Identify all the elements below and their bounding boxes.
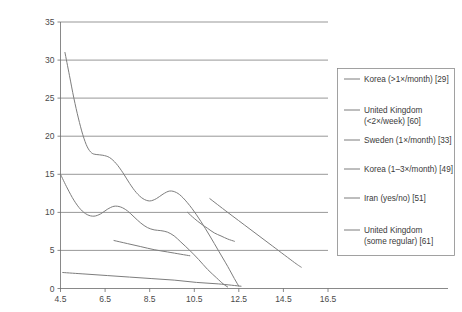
x-tick-label-10.5: 10.5 bbox=[186, 294, 203, 304]
x-tick-label-8.5: 8.5 bbox=[144, 294, 156, 304]
y-tick-label-25: 25 bbox=[45, 93, 55, 103]
legend-label-5-line2: (some regular) [61] bbox=[364, 237, 433, 246]
x-tick-label-16.5: 16.5 bbox=[320, 294, 337, 304]
legend-label-5: United Kingdom bbox=[364, 226, 422, 235]
y-tick-label-20: 20 bbox=[45, 131, 55, 141]
line-chart-figure: 05101520253035 4.56.58.510.512.514.516.5… bbox=[0, 0, 462, 312]
x-tick-label-12.5: 12.5 bbox=[231, 294, 248, 304]
legend-label-3: Korea (1–3×/month) [49] bbox=[364, 165, 453, 174]
legend-label-4: Iran (yes/no) [51] bbox=[364, 194, 426, 203]
legend-label-0: Korea (>1×/month) [29] bbox=[364, 75, 449, 84]
legend-label-1-line2: (<2×/week) [60] bbox=[364, 117, 421, 126]
x-tick-label-6.5: 6.5 bbox=[99, 294, 111, 304]
y-tick-label-0: 0 bbox=[50, 284, 55, 294]
y-tick-label-30: 30 bbox=[45, 55, 55, 65]
x-tick-label-14.5: 14.5 bbox=[275, 294, 292, 304]
y-tick-label-10: 10 bbox=[45, 207, 55, 217]
y-tick-label-5: 5 bbox=[50, 245, 55, 255]
y-tick-label-35: 35 bbox=[45, 17, 55, 27]
x-tick-label-4.5: 4.5 bbox=[55, 294, 67, 304]
legend-label-1: United Kingdom bbox=[364, 106, 422, 115]
y-tick-label-15: 15 bbox=[45, 169, 55, 179]
legend-label-2: Sweden (1×/month) [33] bbox=[364, 136, 452, 145]
